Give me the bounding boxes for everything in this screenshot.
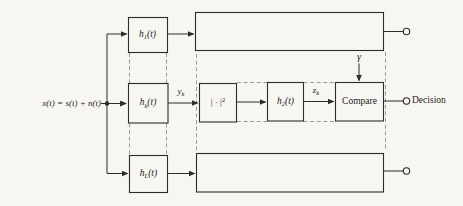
yk-signal-label: yk xyxy=(168,85,194,97)
filter-h2-label: h2(t) xyxy=(267,82,304,121)
branch1-output-terminal xyxy=(403,28,409,34)
square-law-label: | · |2 xyxy=(199,83,237,122)
input-wiring xyxy=(101,34,128,174)
filter-hk-label: hk(t) xyxy=(128,83,168,123)
branch1-processor-box xyxy=(196,13,384,51)
filter-hL-label: hL(t) xyxy=(129,155,168,192)
branchL-output-terminal xyxy=(403,168,409,174)
input-signal-label: x(t) = s(t) + n(t) xyxy=(10,97,101,110)
threshold-gamma-label: γ xyxy=(349,50,369,64)
compare-label: Compare xyxy=(335,82,384,121)
branchL-processor-box xyxy=(197,154,384,193)
output-terminals xyxy=(384,28,410,174)
decision-output-label: Decision xyxy=(412,95,457,107)
block-diagram: x(t) = s(t) + n(t) h1(t) hk(t) hL(t) yk … xyxy=(0,0,463,206)
zk-signal-label: zk xyxy=(302,84,330,96)
filter-h1-label: h1(t) xyxy=(128,17,167,52)
decision-output-terminal xyxy=(403,98,409,104)
